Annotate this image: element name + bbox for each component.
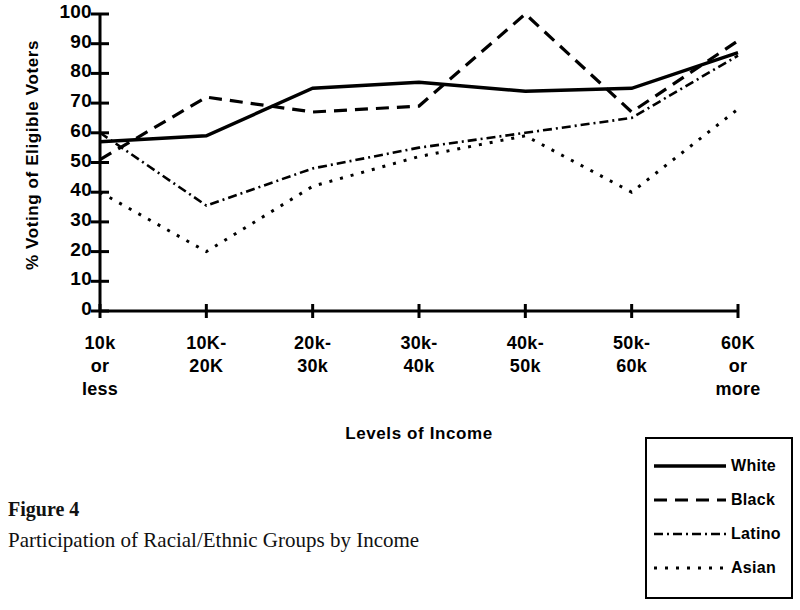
figure-caption: Figure 4 Participation of Racial/Ethnic … bbox=[8, 495, 628, 555]
x-tick-label-line: 50k bbox=[473, 355, 577, 378]
x-tick-label-line: 20k- bbox=[261, 332, 365, 355]
x-tick-label: 10korless bbox=[48, 332, 152, 401]
x-axis-title: Levels of Income bbox=[100, 424, 738, 444]
legend-item-black[interactable]: Black bbox=[647, 487, 795, 513]
figure-description: Participation of Racial/Ethnic Groups by… bbox=[8, 525, 628, 555]
legend-line-sample-icon bbox=[653, 561, 727, 575]
series-line-white bbox=[100, 53, 738, 142]
x-axis-tick-labels: 10korless10K-20K20k-30k30k-40k40k-50k50k… bbox=[100, 332, 738, 427]
y-tick-label: 20 bbox=[46, 239, 92, 261]
legend-line-sample-icon bbox=[653, 459, 727, 473]
y-tick-label: 50 bbox=[46, 150, 92, 172]
x-tick-label-line: 10K- bbox=[154, 332, 258, 355]
x-tick-label-line: 30k- bbox=[367, 332, 471, 355]
figure-number-label: Figure 4 bbox=[8, 495, 628, 523]
y-tick-label: 10 bbox=[46, 268, 92, 290]
x-tick-label-line: or bbox=[48, 355, 152, 378]
x-tick-label: 20k-30k bbox=[261, 332, 365, 378]
y-tick-label: 0 bbox=[46, 298, 92, 320]
x-tick-label-line: 60K bbox=[686, 332, 790, 355]
y-axis-tick-labels: 1009080706050403020100 bbox=[40, 0, 92, 325]
x-tick-label-line: 50k- bbox=[580, 332, 684, 355]
legend-item-latino[interactable]: Latino bbox=[647, 521, 795, 547]
x-tick-label: 60Kormore bbox=[686, 332, 790, 401]
legend-line-sample-icon bbox=[653, 527, 727, 541]
y-tick-label: 60 bbox=[46, 120, 92, 142]
legend-label: Black bbox=[731, 491, 775, 509]
legend-line-sample-icon bbox=[653, 493, 727, 507]
x-tick-label-line: 10k bbox=[48, 332, 152, 355]
x-tick-label: 30k-40k bbox=[367, 332, 471, 378]
x-tick-label-line: 40k- bbox=[473, 332, 577, 355]
x-tick-label-line: 30k bbox=[261, 355, 365, 378]
series-line-latino bbox=[100, 56, 738, 206]
y-tick-label: 80 bbox=[46, 60, 92, 82]
data-series-group bbox=[100, 14, 738, 252]
chart-legend: WhiteBlackLatinoAsian bbox=[645, 437, 793, 599]
x-tick-label: 10K-20K bbox=[154, 332, 258, 378]
x-tick-label-line: or bbox=[686, 355, 790, 378]
legend-item-white[interactable]: White bbox=[647, 453, 795, 479]
axis-lines bbox=[100, 14, 738, 311]
y-tick-label: 40 bbox=[46, 179, 92, 201]
series-line-asian bbox=[100, 109, 738, 252]
y-tick-label: 100 bbox=[46, 1, 92, 23]
legend-label: White bbox=[731, 457, 776, 475]
x-tick-label: 50k-60k bbox=[580, 332, 684, 378]
y-tick-label: 30 bbox=[46, 209, 92, 231]
y-tick-label: 70 bbox=[46, 90, 92, 112]
x-tick-label-line: less bbox=[48, 378, 152, 401]
x-tick-label-line: 40k bbox=[367, 355, 471, 378]
legend-label: Latino bbox=[731, 525, 781, 543]
legend-item-asian[interactable]: Asian bbox=[647, 555, 795, 581]
x-tick-label: 40k-50k bbox=[473, 332, 577, 378]
x-tick-label-line: 20K bbox=[154, 355, 258, 378]
plot-area bbox=[100, 14, 738, 311]
x-tick-label-line: 60k bbox=[580, 355, 684, 378]
x-tick-label-line: more bbox=[686, 378, 790, 401]
legend-label: Asian bbox=[731, 559, 776, 577]
y-tick-label: 90 bbox=[46, 31, 92, 53]
chart-canvas bbox=[100, 14, 738, 311]
